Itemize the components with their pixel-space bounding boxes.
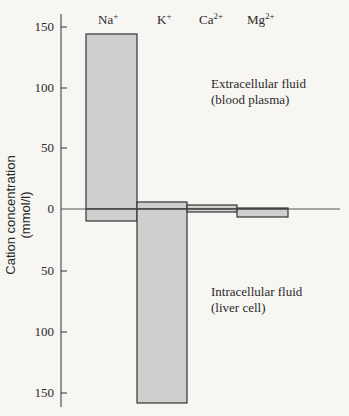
tick-label: 150: [24, 385, 54, 401]
ion-charge: 2+: [213, 11, 223, 21]
ion-symbol: Ca: [199, 12, 213, 27]
bar-na-extracellular: [86, 34, 137, 209]
ion-label-mg: Mg2+: [247, 11, 275, 28]
intracellular-label-line2: (liver cell): [211, 300, 266, 316]
y-ticks: [61, 27, 67, 393]
extracellular-label-line2: (blood plasma): [211, 92, 289, 108]
tick-label: 150: [24, 19, 54, 35]
ion-label-na: Na+: [98, 11, 118, 28]
ion-symbol: Mg: [247, 12, 265, 27]
ion-charge: 2+: [265, 11, 275, 21]
bar-mg-intracellular: [237, 209, 288, 217]
ion-label-k: K+: [157, 11, 171, 28]
ion-charge: +: [166, 11, 171, 21]
bar-na-intracellular: [86, 209, 137, 221]
ion-symbol: Na: [98, 12, 113, 27]
bar-k-intracellular: [137, 209, 187, 403]
extracellular-label-line1: Extracellular fluid: [211, 76, 306, 92]
intracellular-label-line1: Intracellular fluid: [211, 284, 302, 300]
bar-ca-extracellular: [187, 205, 237, 209]
ion-charge: +: [113, 11, 118, 21]
tick-label: 100: [24, 80, 54, 96]
tick-label: 100: [24, 324, 54, 340]
ion-label-ca: Ca2+: [199, 11, 223, 28]
ion-symbol: K: [157, 12, 166, 27]
bar-k-extracellular: [137, 202, 187, 209]
y-axis-label: Cation concentration (mmol/l): [3, 145, 33, 285]
